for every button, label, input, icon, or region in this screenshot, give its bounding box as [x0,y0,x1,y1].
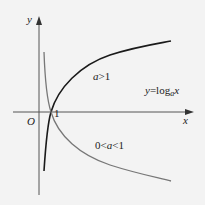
origin-label: O [27,115,35,127]
label-a-between-0-1: 0<a<1 [95,139,124,151]
x-axis-label: x [182,114,188,126]
label-a-greater-1: a>1 [93,70,110,82]
y-axis-arrow-icon [36,16,42,25]
log-function-diagram: y x O 1 a>1 0<a<1 y=logax [0,0,205,205]
one-label: 1 [54,107,60,119]
formula-label: y=logax [144,84,179,98]
curve-a-greater-1 [44,41,171,171]
y-axis-label: y [26,13,32,25]
